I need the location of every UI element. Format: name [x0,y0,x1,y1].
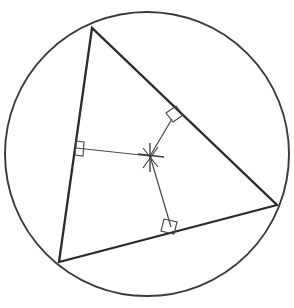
geometry-figure [0,0,294,308]
circumscribed-circle [5,12,289,296]
radius-to-left-side [76,148,150,156]
radius-to-bottom-side [150,156,171,227]
geometry-canvas [0,0,294,308]
circumcenter-mark-icon [138,143,164,172]
radius-to-hypotenuse [150,119,172,156]
inscribed-triangle [59,28,277,262]
